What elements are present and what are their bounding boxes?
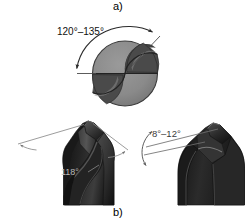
clearance-angle-label: 8°–12° [152,128,181,139]
drill-geometry-figure: 120°–135° 118° 8°–12° a) b) [0,0,245,223]
point-angle-range-label: 120°–135° [57,26,104,37]
panel-a-caption: a) [113,0,123,12]
point-angle-label: 118° [61,167,79,177]
figure-graphic [0,0,245,223]
panel-b-caption: b) [113,206,123,218]
